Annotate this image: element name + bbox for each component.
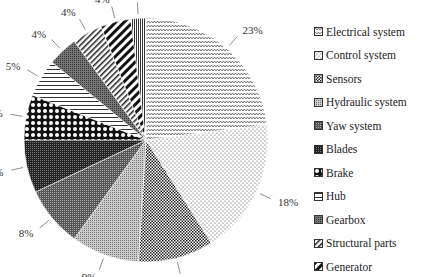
legend-swatch-icon [314, 51, 323, 60]
legend-item: Hydraulic system [314, 91, 421, 115]
legend-swatch-icon [314, 27, 323, 36]
legend-item: Generator [314, 255, 421, 277]
legend-label: Blades [326, 143, 357, 155]
legend-label: Control system [326, 49, 396, 61]
legend-item: Yaw system [314, 114, 421, 138]
slice-percent-label: 8% [19, 227, 34, 239]
slice-percent-label: 5% [6, 60, 21, 72]
legend-label: Structural parts [326, 237, 397, 249]
legend-label: Hydraulic system [326, 96, 407, 108]
legend-item: Hub [314, 185, 421, 209]
legend-label: Gearbox [326, 214, 366, 226]
legend-label: Electrical system [326, 26, 405, 38]
legend-swatch-icon [314, 192, 323, 201]
legend-label: Brake [326, 167, 353, 179]
slice-percent-label: 6% [0, 107, 3, 119]
slice-percent-label: 4% [61, 6, 76, 18]
legend-item: Sensors [314, 67, 421, 91]
slice-percent-label: 9% [82, 271, 97, 277]
legend-label: Yaw system [326, 120, 381, 132]
legend-swatch-icon [314, 239, 323, 248]
slice-percent-label: 4% [95, 0, 110, 5]
legend-label: Hub [326, 190, 346, 202]
legend-item: Gearbox [314, 208, 421, 232]
slice-percent-label: 23% [243, 24, 263, 36]
legend-swatch-icon [314, 168, 323, 177]
slice-percent-label: 18% [278, 196, 298, 208]
legend-item: Structural parts [314, 232, 421, 256]
legend-swatch-icon [314, 74, 323, 83]
legend-swatch-icon [314, 145, 323, 154]
slice-percent-label: 4% [31, 28, 46, 40]
legend-item: Brake [314, 161, 421, 185]
slice-percent-label: 7% [0, 166, 4, 178]
legend-swatch-icon [314, 98, 323, 107]
legend-item: Electrical system [314, 20, 421, 44]
legend-item: Control system [314, 44, 421, 68]
legend-label: Sensors [326, 73, 362, 85]
legend-label: Generator [326, 261, 372, 273]
legend-swatch-icon [314, 215, 323, 224]
legend-swatch-icon [314, 262, 323, 271]
legend: Electrical systemControl systemSensorsHy… [314, 20, 421, 277]
legend-item: Blades [314, 138, 421, 162]
legend-swatch-icon [314, 121, 323, 130]
